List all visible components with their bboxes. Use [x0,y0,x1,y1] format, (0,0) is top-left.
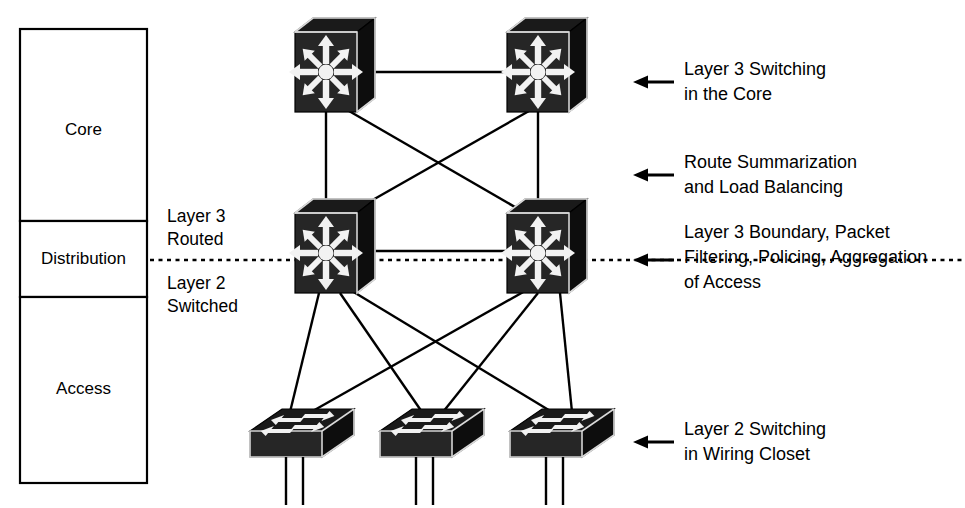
left-arrow-icon [633,76,674,89]
distribution-switch-right[interactable] [501,199,587,293]
annotation-distribution-line3: of Access [684,272,761,292]
annotation-distribution-line1: Layer 3 Boundary, Packet [684,222,890,242]
layer3-switch-icon [289,18,375,112]
layer-column: Core Distribution Access [20,29,147,483]
link-dist2-access1 [311,291,525,412]
boundary-upper-label-line2: Routed [167,229,223,249]
link-dist1-access3 [352,291,552,412]
access-switch-1[interactable] [250,409,354,505]
annotation-core: Layer 3 Switching in the Core [633,59,826,104]
layer3-switch-icon [501,199,587,293]
left-arrow-icon [633,436,674,449]
access-switch-3[interactable] [510,409,614,505]
access-switch-2[interactable] [380,409,484,505]
boundary-upper-label-line1: Layer 3 [167,206,225,226]
annotation-access: Layer 2 Switching in Wiring Closet [633,419,826,464]
annotation-core-line2: in the Core [684,84,772,104]
core-switch-left[interactable] [289,18,375,112]
annotation-summarization-line2: and Load Balancing [684,177,843,197]
link-dist2-access3 [560,293,572,412]
boundary-lower-label-line2: Switched [167,296,238,316]
annotation-distribution-line2: Filtering, Policing, Aggregation [684,247,927,267]
workgroup-switch-icon [380,409,484,457]
workgroup-switch-icon [510,409,614,457]
annotation-access-line2: in Wiring Closet [684,444,810,464]
topology-canvas: Core Distribution Access Layer 3 Routed … [0,0,965,508]
annotation-access-line1: Layer 2 Switching [684,419,826,439]
layer-label-access: Access [56,379,111,398]
layer-label-distribution: Distribution [41,249,126,268]
workgroup-switch-icon [250,409,354,457]
link-dist1-access2 [340,293,422,412]
annotation-summarization: Route Summarization and Load Balancing [633,152,857,197]
annotation-core-line1: Layer 3 Switching [684,59,826,79]
annotation-summarization-line1: Route Summarization [684,152,857,172]
left-arrow-icon [633,254,674,267]
boundary-lower-label-line1: Layer 2 [167,273,225,293]
core-switch-right[interactable] [501,18,587,112]
left-arrow-icon [633,169,674,182]
distribution-switch-left[interactable] [289,199,375,293]
layer3-switch-icon [501,18,587,112]
annotation-distribution: Layer 3 Boundary, Packet Filtering, Poli… [633,222,927,292]
link-dist1-access1 [290,293,319,412]
layer-label-core: Core [65,120,102,139]
network-topology-diagram: Core Distribution Access Layer 3 Routed … [0,0,965,508]
layer3-switch-icon [289,199,375,293]
